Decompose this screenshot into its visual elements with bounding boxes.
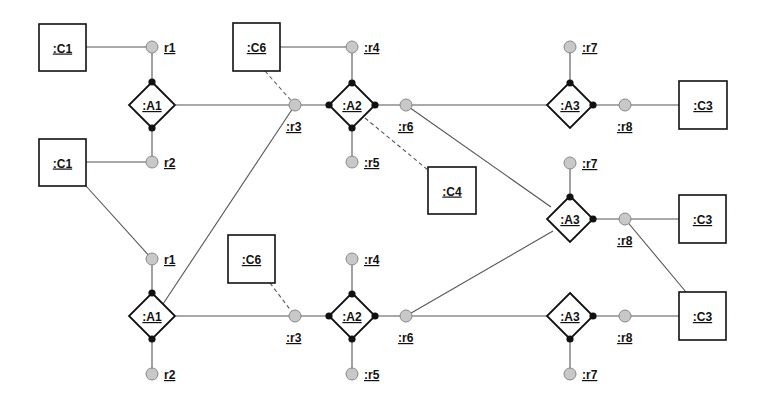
role-label: :r7 [582, 157, 598, 171]
class-box-c3c[interactable]: :C3 [679, 292, 726, 340]
role-label: :r8 [617, 120, 633, 134]
role-port-circle [146, 41, 158, 53]
role-r4b[interactable]: :r4 [346, 253, 380, 267]
association-a3c[interactable]: :A3 [547, 293, 593, 339]
class-label: :C1 [53, 42, 73, 56]
end-dot [589, 312, 596, 319]
role-port-circle [346, 368, 358, 380]
role-port-circle [146, 368, 158, 380]
role-r8b[interactable]: :r8 [617, 213, 633, 248]
role-port-circle [346, 253, 358, 265]
role-r2a[interactable]: r2 [146, 156, 176, 170]
role-port-circle [564, 41, 576, 53]
association-line [625, 219, 686, 292]
association-a1b[interactable]: :A1 [129, 293, 175, 339]
role-r4a[interactable]: :r4 [346, 41, 380, 55]
role-r8a[interactable]: :r8 [617, 99, 633, 134]
association-label: :A1 [142, 99, 162, 113]
role-r6a[interactable]: :r6 [398, 99, 414, 134]
class-label: :C6 [247, 41, 267, 55]
role-port-circle [289, 99, 301, 111]
role-label: :r5 [364, 368, 380, 382]
role-r2b[interactable]: r2 [146, 368, 176, 382]
association-a3a[interactable]: :A3 [547, 82, 593, 128]
role-r3a[interactable]: :r3 [286, 99, 302, 134]
class-label: :C1 [53, 157, 73, 171]
role-port-circle [346, 41, 358, 53]
end-dot [325, 312, 332, 319]
class-box-c3a[interactable]: :C3 [679, 81, 727, 129]
association-label: :A3 [560, 213, 580, 227]
association-label: :A3 [560, 99, 580, 113]
association-label: :A3 [560, 310, 580, 324]
end-dot [566, 335, 573, 342]
class-box-c3b[interactable]: :C3 [679, 195, 726, 243]
role-port-circle [619, 310, 631, 322]
association-label: :A2 [342, 99, 362, 113]
class-label: :C3 [693, 99, 713, 113]
class-label: :C4 [442, 185, 462, 199]
role-port-circle [346, 156, 358, 168]
class-boxes: :C1:C1:C6:C6:C4:C3:C3:C3 [39, 23, 727, 340]
association-line [86, 186, 152, 259]
end-dot [148, 335, 155, 342]
end-dot [566, 79, 573, 86]
end-dot [148, 289, 155, 296]
role-r5b[interactable]: :r5 [346, 368, 380, 382]
end-dot [371, 101, 378, 108]
association-a2b[interactable]: :A2 [329, 293, 375, 339]
end-dot [148, 124, 155, 131]
end-dot [348, 290, 355, 297]
end-dot [566, 193, 573, 200]
role-label: :r8 [617, 331, 633, 345]
role-label: r2 [164, 368, 176, 382]
role-label: :r8 [617, 234, 633, 248]
end-dot [348, 335, 355, 342]
role-r1b[interactable]: r1 [146, 253, 176, 267]
class-box-c4[interactable]: :C4 [428, 167, 476, 214]
role-r6b[interactable]: :r6 [398, 310, 414, 345]
role-r5a[interactable]: :r5 [346, 156, 380, 170]
role-r3b[interactable]: :r3 [286, 310, 302, 345]
role-port-circle [400, 310, 412, 322]
end-dot [348, 124, 355, 131]
association-a3b[interactable]: :A3 [547, 196, 593, 242]
class-box-c6b[interactable]: :C6 [228, 235, 275, 283]
role-label: :r3 [286, 331, 302, 345]
role-r7b[interactable]: :r7 [564, 157, 598, 171]
role-r8c[interactable]: :r8 [617, 310, 633, 345]
class-box-c1a[interactable]: :C1 [39, 24, 86, 71]
end-dot [371, 312, 378, 319]
association-a1a[interactable]: :A1 [129, 82, 175, 128]
class-label: :C3 [693, 310, 713, 324]
end-dot [348, 79, 355, 86]
class-box-c6a[interactable]: :C6 [233, 23, 280, 71]
role-label: :r6 [398, 331, 414, 345]
association-a2a[interactable]: :A2 [329, 82, 375, 128]
collaboration-diagram: :A1:A2:A3:A3:A1:A2:A3 :C1:C1:C6:C6:C4:C3… [0, 0, 766, 404]
role-port-circle [619, 99, 631, 111]
class-box-c1b[interactable]: :C1 [39, 139, 86, 186]
role-r7c[interactable]: :r7 [564, 368, 598, 382]
connector-lines [86, 47, 686, 374]
role-r7a[interactable]: :r7 [564, 41, 598, 55]
role-port-circle [564, 157, 576, 169]
role-r1a[interactable]: r1 [146, 41, 176, 55]
end-dot [325, 101, 332, 108]
role-port-circle [146, 253, 158, 265]
dependency-line [265, 71, 295, 105]
role-port-circle [400, 99, 412, 111]
role-label: :r7 [582, 41, 598, 55]
end-dot [148, 78, 155, 85]
class-label: :C3 [693, 213, 713, 227]
role-label: r1 [164, 253, 176, 267]
association-line [406, 231, 553, 316]
association-end-dots [148, 78, 596, 342]
role-label: :r3 [286, 120, 302, 134]
role-label: r1 [164, 41, 176, 55]
role-label: r2 [164, 156, 176, 170]
role-label: :r4 [364, 253, 380, 267]
end-dot [589, 101, 596, 108]
role-port-circle [289, 310, 301, 322]
association-label: :A2 [342, 310, 362, 324]
